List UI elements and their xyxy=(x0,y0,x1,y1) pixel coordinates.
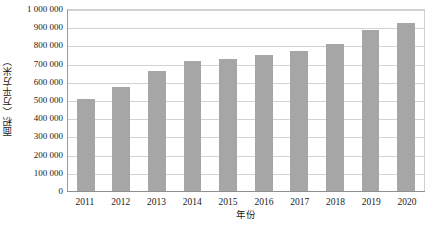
bar-2020[interactable] xyxy=(397,23,415,192)
bar-slot xyxy=(68,10,104,192)
y-axis-tick-label: 200 000 xyxy=(34,150,63,159)
y-axis-tick-label: 700 000 xyxy=(34,59,63,68)
y-axis-tick-label: 600 000 xyxy=(34,77,63,86)
bar-slot xyxy=(282,10,318,192)
bar-2012[interactable] xyxy=(112,87,130,192)
y-axis-tick-label: 900 000 xyxy=(34,23,63,32)
bar-slot xyxy=(210,10,246,192)
bar-slot xyxy=(388,10,424,192)
bar-2013[interactable] xyxy=(148,71,166,192)
bar-2016[interactable] xyxy=(255,55,273,192)
y-axis-tick-label: 800 000 xyxy=(34,41,63,50)
bar-2019[interactable] xyxy=(362,30,380,192)
y-axis-title-label: 面积（万平方米） xyxy=(4,56,14,136)
bar-slot xyxy=(317,10,353,192)
bar-slot xyxy=(175,10,211,192)
y-axis-tick-label: 400 000 xyxy=(34,114,63,123)
bar-slot xyxy=(353,10,389,192)
bar-2015[interactable] xyxy=(219,59,237,192)
plot-area xyxy=(67,9,425,192)
y-axis-tick-label: 100 000 xyxy=(34,168,63,177)
y-axis-title: 面积（万平方米） xyxy=(0,0,18,192)
y-axis-tick-labels: 0100 000200 000300 000400 000500 000600 … xyxy=(18,0,66,192)
x-axis-title: 年份 xyxy=(67,208,425,222)
bars-layer xyxy=(68,10,424,192)
bar-2014[interactable] xyxy=(184,61,202,192)
bar-slot xyxy=(104,10,140,192)
y-axis-tick-label: 300 000 xyxy=(34,132,63,141)
bar-2018[interactable] xyxy=(326,44,344,192)
y-axis-tick-label: 1 000 000 xyxy=(27,5,63,14)
y-axis-tick-label: 0 xyxy=(59,187,64,196)
bar-2011[interactable] xyxy=(77,99,95,192)
bar-slot xyxy=(139,10,175,192)
x-axis-line xyxy=(67,191,425,192)
y-axis-tick-label: 500 000 xyxy=(34,96,63,105)
bar-2017[interactable] xyxy=(290,51,308,192)
bar-slot xyxy=(246,10,282,192)
bar-chart: 面积（万平方米） 0100 000200 000300 000400 00050… xyxy=(0,0,434,234)
